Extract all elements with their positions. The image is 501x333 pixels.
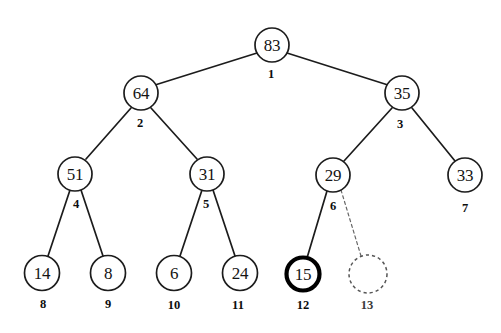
node-index-label-13: 13 bbox=[361, 298, 374, 312]
tree-edge-n1-n3 bbox=[287, 53, 388, 85]
node-index-label-4: 4 bbox=[73, 197, 80, 211]
node-value-1: 83 bbox=[264, 36, 280, 55]
node-value-6: 29 bbox=[325, 166, 341, 185]
node-index-label-9: 9 bbox=[105, 297, 111, 311]
tree-node-7[interactable]: 33 bbox=[448, 158, 482, 192]
tree-node-3[interactable]: 35 bbox=[385, 76, 419, 110]
tree-edge-n3-n7 bbox=[412, 108, 455, 161]
tree-node-11[interactable]: 24 bbox=[223, 256, 258, 291]
tree-edge-n3-n6 bbox=[344, 108, 392, 161]
node-circle-13[interactable] bbox=[349, 255, 387, 293]
node-value-7: 33 bbox=[457, 166, 473, 185]
node-index-label-12: 12 bbox=[297, 298, 310, 312]
tree-edge-n5-n11 bbox=[213, 190, 235, 256]
node-index-label-11: 11 bbox=[232, 298, 244, 312]
node-index-label-6: 6 bbox=[330, 199, 336, 213]
tree-node-8[interactable]: 14 bbox=[25, 256, 60, 291]
tree-edge-n6-n12 bbox=[307, 191, 327, 258]
tree-node-5[interactable]: 31 bbox=[190, 157, 224, 191]
tree-edge-n2-n4 bbox=[86, 108, 131, 159]
node-index-label-7: 7 bbox=[462, 201, 468, 215]
tree-node-4[interactable]: 51 bbox=[58, 157, 92, 191]
node-value-3: 35 bbox=[394, 84, 410, 103]
tree-node-6[interactable]: 29 bbox=[316, 158, 350, 192]
tree-edge-n4-n8 bbox=[48, 190, 70, 256]
node-index-label-5: 5 bbox=[203, 197, 209, 211]
node-value-12: 15 bbox=[295, 265, 311, 284]
nodes-layer: 8364355131293314862415 bbox=[25, 28, 483, 293]
node-index-label-8: 8 bbox=[40, 297, 46, 311]
node-value-9: 8 bbox=[104, 264, 112, 283]
binary-heap-tree-diagram: 8364355131293314862415 12345678910111213 bbox=[0, 0, 501, 333]
node-value-8: 14 bbox=[34, 264, 51, 283]
node-index-label-1: 1 bbox=[268, 67, 274, 81]
tree-edge-n5-n10 bbox=[180, 190, 202, 256]
tree-node-9[interactable]: 8 bbox=[91, 256, 126, 291]
tree-node-12[interactable]: 15 bbox=[287, 258, 320, 291]
node-value-5: 31 bbox=[199, 165, 215, 184]
node-value-11: 24 bbox=[232, 264, 249, 283]
tree-edge-n1-n2 bbox=[155, 53, 257, 85]
tree-edge-n2-n5 bbox=[151, 108, 197, 159]
tree-node-1[interactable]: 83 bbox=[255, 28, 289, 62]
node-index-label-2: 2 bbox=[137, 116, 143, 130]
tree-edge-n6-n13 bbox=[341, 190, 361, 256]
tree-edge-n4-n9 bbox=[81, 190, 103, 256]
node-index-label-3: 3 bbox=[397, 117, 403, 131]
tree-node-13[interactable] bbox=[349, 255, 387, 293]
node-value-10: 6 bbox=[170, 264, 178, 283]
node-value-4: 51 bbox=[67, 165, 83, 184]
tree-node-10[interactable]: 6 bbox=[157, 256, 192, 291]
node-value-2: 64 bbox=[133, 84, 150, 103]
tree-canvas: 8364355131293314862415 12345678910111213 bbox=[0, 0, 501, 333]
node-index-label-10: 10 bbox=[168, 298, 181, 312]
tree-node-2[interactable]: 64 bbox=[124, 76, 158, 110]
